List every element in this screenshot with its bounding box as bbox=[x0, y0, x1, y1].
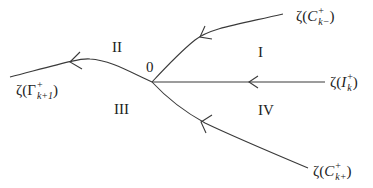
label-c-k-plus-sup: + bbox=[335, 161, 346, 171]
origin-label: 0 bbox=[146, 60, 154, 75]
label-i-k-scripts: +k bbox=[347, 74, 353, 94]
label-c-k-minus-sup: + bbox=[318, 6, 329, 16]
label-gamma-sup: + bbox=[37, 80, 53, 90]
label-c-k-plus-prefix: ζ( bbox=[313, 163, 324, 179]
label-c-k-minus-scripts: +k− bbox=[318, 8, 329, 28]
label-c-k-plus-sub: k+ bbox=[335, 172, 346, 182]
region-label-II: II bbox=[112, 40, 122, 55]
label-gamma-sub: k+1 bbox=[37, 91, 53, 101]
label-c-k-plus-base: C bbox=[324, 163, 334, 179]
curve-c-k-minus bbox=[152, 14, 283, 82]
label-c-k-minus-suffix: ) bbox=[329, 8, 334, 24]
region-label-I: I bbox=[258, 45, 263, 60]
label-c-k-plus-scripts: +k+ bbox=[335, 163, 346, 183]
region-label-III: III bbox=[114, 102, 129, 117]
curve-c-k-plus bbox=[152, 82, 308, 168]
label-i-k-sup: + bbox=[347, 72, 353, 82]
label-i-k-base: I bbox=[341, 74, 346, 90]
label-c-k-minus-prefix: ζ( bbox=[296, 8, 307, 24]
label-c-k-minus-base: C bbox=[307, 8, 317, 24]
label-i-k-prefix: ζ( bbox=[330, 74, 341, 90]
label-c-k-minus: ζ(C+k−) bbox=[296, 8, 334, 28]
curve-gamma bbox=[10, 59, 152, 82]
label-c-k-plus-suffix: ) bbox=[346, 163, 351, 179]
label-i-k-suffix: ) bbox=[353, 74, 358, 90]
region-label-IV: IV bbox=[258, 103, 274, 118]
label-i-k-sub: k bbox=[347, 83, 353, 93]
label-gamma-base: Γ bbox=[27, 82, 36, 98]
arrow-c-k-minus-icon bbox=[200, 26, 212, 39]
label-gamma-scripts: +k+1 bbox=[37, 82, 53, 102]
label-c-k-plus: ζ(C+k+) bbox=[313, 163, 351, 183]
label-c-k-minus-sub: k− bbox=[318, 17, 329, 27]
label-gamma: ζ(Γ+k+1) bbox=[16, 82, 58, 102]
label-gamma-prefix: ζ( bbox=[16, 82, 27, 98]
label-gamma-suffix: ) bbox=[53, 82, 58, 98]
label-i-k: ζ(I+k) bbox=[330, 74, 358, 94]
